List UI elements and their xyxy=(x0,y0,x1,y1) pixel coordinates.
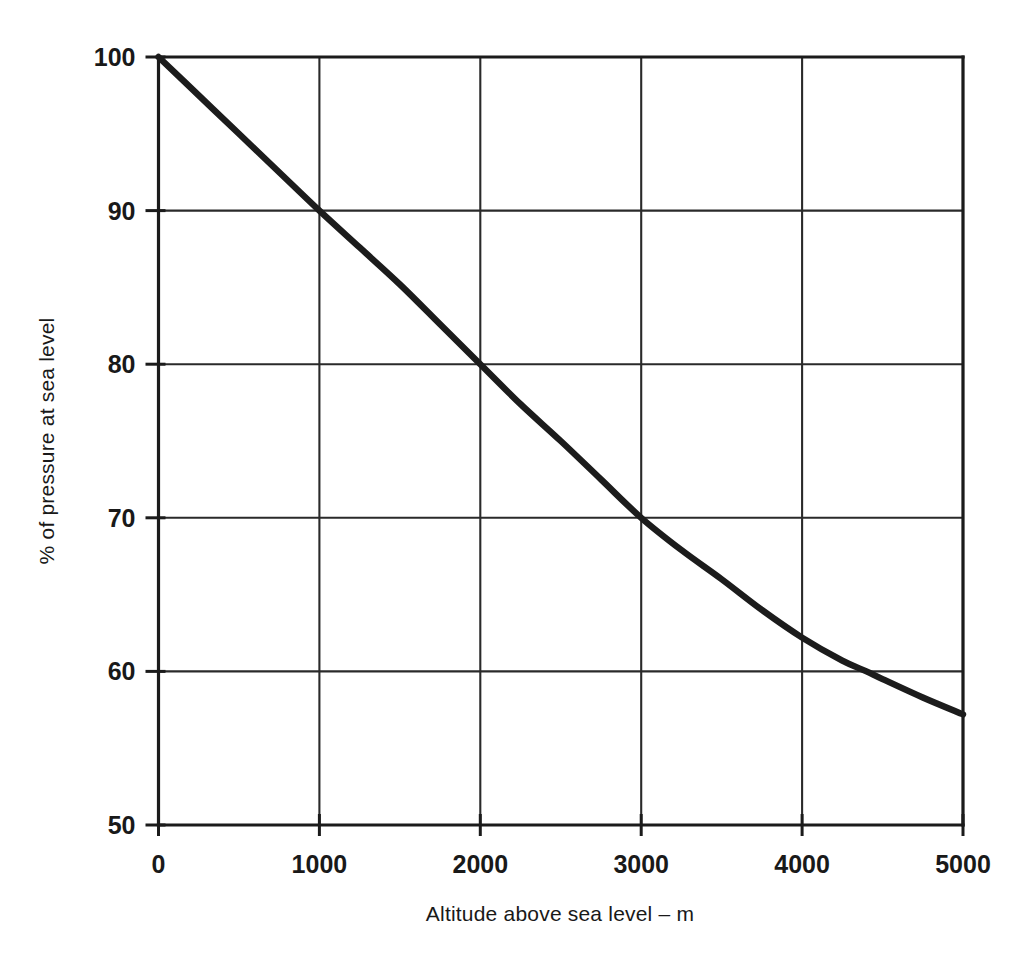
y-tick-label-100: 100 xyxy=(94,43,136,71)
y-tick-label-70: 70 xyxy=(108,504,136,532)
y-tick-label-80: 80 xyxy=(108,350,136,378)
y-axis-title: % of pressure at sea level xyxy=(35,318,58,565)
y-tick-label-60: 60 xyxy=(108,657,136,685)
pressure-altitude-chart: 5060708090100 010002000300040005000 Alti… xyxy=(0,0,1028,964)
x-tick-label-0: 0 xyxy=(152,850,166,878)
x-tick-label-2000: 2000 xyxy=(452,850,508,878)
x-axis-title: Altitude above sea level – m xyxy=(426,902,694,925)
y-tick-label-50: 50 xyxy=(108,811,136,839)
x-tick-label-3000: 3000 xyxy=(613,850,669,878)
x-tick-label-1000: 1000 xyxy=(292,850,348,878)
chart-canvas: 5060708090100 010002000300040005000 Alti… xyxy=(0,0,1028,964)
x-tick-label-4000: 4000 xyxy=(774,850,830,878)
chart-background xyxy=(0,0,1028,964)
y-tick-label-90: 90 xyxy=(108,197,136,225)
x-tick-label-5000: 5000 xyxy=(935,850,991,878)
